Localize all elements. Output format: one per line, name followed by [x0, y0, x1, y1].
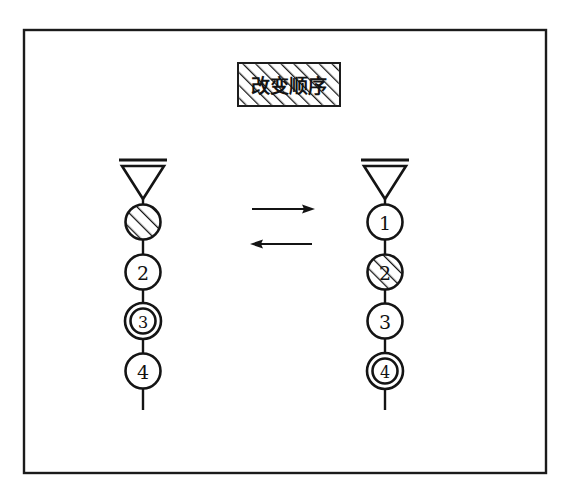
right-node-3-label: 3 [379, 311, 391, 333]
right-node-4-label: 4 [380, 363, 390, 382]
right-node-2-label: 2 [379, 262, 391, 284]
left-node-4-label: 4 [137, 361, 149, 383]
left-node-1[interactable] [126, 205, 161, 240]
right-node-1[interactable]: 1 [368, 205, 403, 240]
left-node-3[interactable]: 3 [125, 303, 161, 339]
right-node-2[interactable]: 2 [368, 255, 403, 290]
diagram-canvas: 改变顺序 2 [0, 0, 570, 498]
right-node-1-label: 1 [379, 212, 391, 234]
left-node-4[interactable]: 4 [126, 354, 161, 389]
title-box-label: 改变顺序 [251, 75, 327, 97]
left-node-2[interactable]: 2 [126, 255, 161, 290]
left-node-2-label: 2 [137, 262, 149, 284]
right-node-4[interactable]: 4 [367, 353, 403, 389]
right-node-3[interactable]: 3 [368, 304, 403, 339]
left-node-3-label: 3 [138, 313, 148, 332]
title-box: 改变顺序 [238, 63, 340, 106]
